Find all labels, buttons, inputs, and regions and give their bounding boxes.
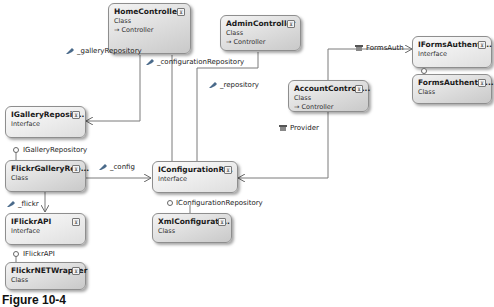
class-base: → Controller bbox=[294, 103, 364, 112]
class-xmlconfigurationrepository[interactable]: XmlConfigurati... Class ⊻ bbox=[152, 213, 232, 243]
collapse-toggle-icon[interactable]: ⊻ bbox=[478, 79, 486, 87]
field-icon bbox=[7, 201, 15, 207]
field-icon bbox=[66, 48, 74, 54]
class-base: → Controller bbox=[226, 38, 296, 47]
collapse-toggle-icon[interactable]: ⊻ bbox=[72, 165, 80, 173]
class-name: IGalleryReposit... bbox=[11, 110, 81, 120]
class-name: FormsAuthentic... bbox=[418, 78, 487, 88]
collapse-toggle-icon[interactable]: ⊻ bbox=[355, 85, 363, 93]
association-label-config: _config bbox=[99, 163, 135, 172]
class-name: XmlConfigurati... bbox=[158, 217, 227, 227]
class-kind: Class bbox=[114, 17, 186, 26]
association-label-galleryrepository: _galleryRepository bbox=[66, 47, 142, 56]
association-label-formsauth: FormsAuth bbox=[355, 44, 404, 53]
association-text: _repository bbox=[220, 81, 259, 89]
collapse-toggle-icon[interactable]: ⊻ bbox=[72, 218, 80, 226]
class-formsauthentication[interactable]: FormsAuthentic... Class ⊻ bbox=[412, 74, 492, 104]
association-text: _flickr bbox=[18, 200, 39, 208]
collapse-toggle-icon[interactable]: ⊻ bbox=[177, 8, 185, 16]
collapse-toggle-icon[interactable]: ⊻ bbox=[478, 41, 486, 49]
class-kind: Class bbox=[226, 29, 296, 38]
association-text: FormsAuth bbox=[366, 44, 404, 52]
association-label-repository: _repository bbox=[209, 81, 259, 90]
interface-lollipop-icon bbox=[13, 251, 19, 257]
class-name: HomeController bbox=[114, 7, 186, 17]
collapse-toggle-icon[interactable]: ⊻ bbox=[218, 218, 226, 226]
class-flickrgalleryrepository[interactable]: FlickrGalleryRep... Class ⊻ bbox=[5, 160, 86, 192]
association-label-configurationrepository: _configurationRepository bbox=[146, 58, 244, 67]
collapse-toggle-icon[interactable]: ⊻ bbox=[72, 111, 80, 119]
class-accountcontroller[interactable]: AccountControll... Class → Controller ⊻ bbox=[288, 80, 369, 112]
collapse-toggle-icon[interactable]: ⊻ bbox=[287, 20, 295, 28]
interface-lollipop-icon bbox=[13, 147, 19, 153]
interface-igalleryrepository[interactable]: IGalleryReposit... Interface ⊻ bbox=[5, 106, 86, 138]
class-name: AdminController bbox=[226, 19, 296, 29]
class-name: IConfigurationR... bbox=[158, 165, 233, 175]
class-flickrnetwrapper[interactable]: FlickrNETWrapper Class ⊻ bbox=[5, 262, 86, 290]
association-label-flickr: _flickr bbox=[7, 200, 39, 209]
class-kind: Interface bbox=[11, 120, 81, 129]
property-icon bbox=[279, 125, 287, 131]
class-kind: Interface bbox=[158, 175, 233, 184]
class-kind: Interface bbox=[11, 227, 81, 236]
field-icon bbox=[146, 59, 154, 65]
field-icon bbox=[209, 82, 217, 88]
figure-caption: Figure 10-4 bbox=[2, 293, 66, 307]
association-text: _config bbox=[110, 163, 135, 171]
class-name: IFormsAuthenti... bbox=[418, 40, 487, 50]
collapse-toggle-icon[interactable]: ⊻ bbox=[72, 267, 80, 275]
association-text: _configurationRepository bbox=[157, 58, 244, 66]
interface-lollipop-icon bbox=[167, 200, 173, 206]
class-kind: Class bbox=[11, 276, 81, 285]
class-kind: Class bbox=[11, 174, 81, 183]
interface-iflickrapi[interactable]: IFlickrAPI Interface ⊻ bbox=[5, 213, 86, 245]
property-icon bbox=[355, 45, 363, 51]
class-name: AccountControll... bbox=[294, 84, 364, 94]
class-name: FlickrGalleryRep... bbox=[11, 164, 81, 174]
implemented-interface-label: IConfigurationRepository bbox=[176, 199, 263, 208]
class-base: → Controller bbox=[114, 26, 186, 35]
interface-iconfigurationrepository[interactable]: IConfigurationR... Interface ⊻ bbox=[152, 161, 238, 193]
class-kind: Class bbox=[418, 88, 487, 97]
class-kind: Class bbox=[294, 94, 364, 103]
collapse-toggle-icon[interactable]: ⊻ bbox=[224, 166, 232, 174]
association-text: Provider bbox=[290, 124, 319, 132]
implemented-interface-label: IFlickrAPI bbox=[23, 250, 55, 259]
interface-iformsauthentication[interactable]: IFormsAuthenti... Interface ⊻ bbox=[412, 36, 492, 68]
field-icon bbox=[99, 164, 107, 170]
class-admincontroller[interactable]: AdminController Class → Controller ⊻ bbox=[220, 15, 301, 51]
class-kind: Interface bbox=[418, 50, 487, 59]
implemented-interface-label: IGalleryRepository bbox=[23, 146, 87, 155]
class-kind: Class bbox=[158, 227, 227, 236]
association-text: _galleryRepository bbox=[77, 47, 142, 55]
class-name: IFlickrAPI bbox=[11, 217, 81, 227]
association-label-provider: Provider bbox=[279, 124, 319, 133]
class-name: FlickrNETWrapper bbox=[11, 266, 81, 276]
